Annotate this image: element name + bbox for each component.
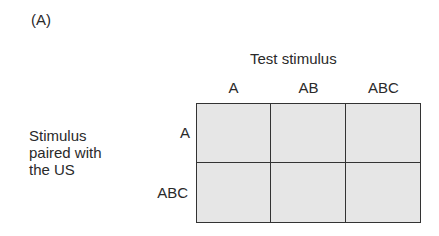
grid-cell-a-ab	[271, 104, 345, 163]
grid-cell-abc-ab	[271, 163, 345, 222]
grid-cell-a-a	[197, 104, 271, 163]
grid-cell-a-abc	[346, 104, 420, 163]
grid-cell-abc-abc	[346, 163, 420, 222]
column-header-abc: ABC	[346, 79, 421, 96]
column-header-ab: AB	[271, 79, 346, 96]
column-header-a: A	[196, 79, 271, 96]
column-axis-title: Test stimulus	[250, 50, 337, 67]
design-grid	[196, 103, 421, 223]
row-axis-title-line: the US	[29, 161, 102, 178]
row-header-abc: ABC	[138, 184, 188, 201]
grid-cell-abc-a	[197, 163, 271, 222]
row-axis-title: Stimulus paired with the US	[29, 127, 102, 178]
row-axis-title-line: Stimulus	[29, 127, 102, 144]
row-header-a: A	[140, 124, 190, 141]
row-axis-title-line: paired with	[29, 144, 102, 161]
panel-label: (A)	[31, 11, 51, 28]
